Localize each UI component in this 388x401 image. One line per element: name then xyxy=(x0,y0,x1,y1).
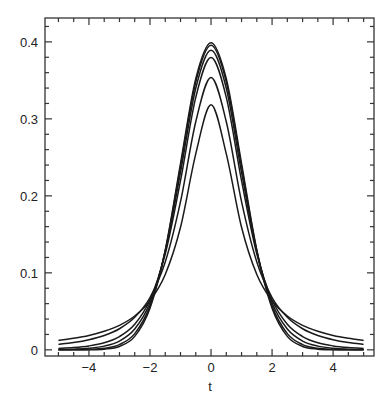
density-curve-1 xyxy=(58,78,363,345)
density-curves xyxy=(58,43,363,350)
y-tick-label: 0.3 xyxy=(20,112,38,127)
density-curve-0 xyxy=(58,105,363,341)
density-curve-3 xyxy=(58,50,363,349)
y-tick-label: 0.4 xyxy=(20,35,38,50)
t-density-chart: −4−2024 00.10.20.30.4 t xyxy=(0,0,388,401)
density-curve-5 xyxy=(58,43,363,350)
x-tick-labels: −4−2024 xyxy=(82,360,337,375)
y-tick-label: 0.2 xyxy=(20,189,38,204)
y-tick-label: 0 xyxy=(31,343,38,358)
x-axis-title: t xyxy=(208,379,212,394)
x-tick-label: 0 xyxy=(207,360,214,375)
x-tick-label: −4 xyxy=(82,360,97,375)
x-tick-label: 2 xyxy=(268,360,275,375)
density-curve-4 xyxy=(58,45,363,350)
x-tick-label: −2 xyxy=(143,360,158,375)
density-curve-2 xyxy=(58,58,363,349)
axis-ticks xyxy=(45,18,374,356)
plot-frame xyxy=(45,18,374,356)
y-tick-labels: 00.10.20.30.4 xyxy=(20,35,38,358)
y-tick-label: 0.1 xyxy=(20,266,38,281)
x-tick-label: 4 xyxy=(329,360,336,375)
